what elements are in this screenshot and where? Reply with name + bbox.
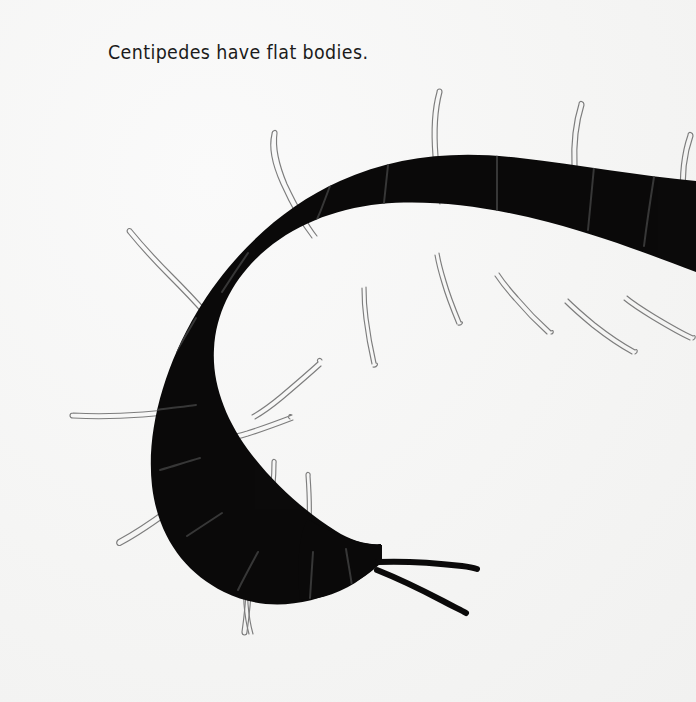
centipede-body [151, 155, 696, 605]
leg-inner-5 [362, 287, 377, 367]
antenna-upper [378, 562, 477, 569]
centipede-illustration [0, 0, 696, 702]
centipede-antennae [377, 562, 477, 613]
leg-inner-2 [565, 299, 637, 354]
leg-inner-6 [252, 359, 322, 419]
leg-outer-5 [127, 228, 208, 316]
leg-inner-4 [435, 253, 462, 325]
page-caption: Centipedes have flat bodies. [108, 40, 368, 64]
leg-inner-3 [495, 273, 553, 334]
leg-inner-1 [624, 296, 695, 340]
centipede-svg [0, 0, 696, 702]
antenna-lower [377, 570, 466, 613]
illustration-page: Centipedes have flat bodies. [0, 0, 696, 702]
